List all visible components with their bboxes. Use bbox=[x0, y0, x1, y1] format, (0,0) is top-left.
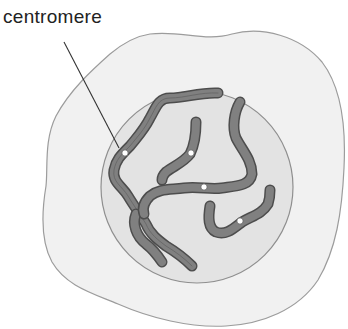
centromere-3 bbox=[201, 184, 207, 190]
centromere-2 bbox=[188, 150, 194, 156]
centromere-4 bbox=[237, 218, 243, 224]
cell-diagram bbox=[0, 0, 348, 329]
centromere-1 bbox=[122, 150, 128, 156]
